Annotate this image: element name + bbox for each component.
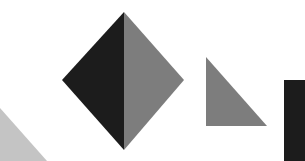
black-rectangle (284, 80, 305, 161)
shapes-canvas (0, 0, 305, 161)
